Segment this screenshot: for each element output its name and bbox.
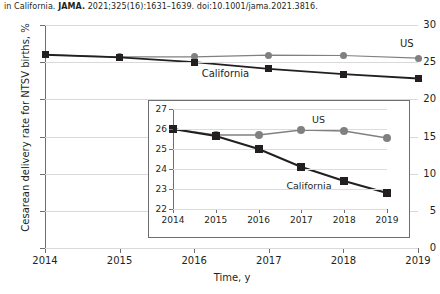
inset-data-point-california (255, 145, 263, 153)
inset-x-tick-label: 2015 (196, 215, 236, 225)
data-point-california (415, 75, 422, 82)
inset-plot-area: USCalifornia (173, 109, 387, 209)
inset-y-tick-mark (169, 189, 173, 190)
inset-x-tick-label: 2017 (281, 215, 321, 225)
inset-x-tick-mark (344, 210, 345, 213)
inset-y-grid-line (173, 209, 387, 210)
inset-series-label-california: California (286, 181, 331, 191)
inset-data-point-california (297, 163, 305, 171)
x-tick-label: 2019 (396, 255, 440, 266)
figure-citation: in California. JAMA. 2021;325(16):1631–1… (4, 1, 432, 12)
data-point-california (191, 59, 198, 66)
inset-y-grid-line (173, 189, 387, 190)
y-grid-line (45, 25, 418, 26)
x-tick-mark (418, 249, 419, 253)
y-tick-mark (40, 211, 45, 212)
y-tick-mark (40, 62, 45, 63)
inset-y-tick-label: 27 (149, 105, 167, 114)
inset-x-tick-mark (173, 210, 174, 213)
y-grid-line (45, 248, 418, 249)
x-tick-label: 2018 (321, 255, 365, 266)
data-point-california (116, 54, 123, 61)
x-axis-title: Time, y (45, 272, 419, 283)
inset-x-tick-label: 2016 (239, 215, 279, 225)
inset-x-tick-mark (301, 210, 302, 213)
x-tick-mark (194, 249, 195, 253)
inset-y-tick-mark (169, 109, 173, 110)
x-tick-mark (269, 249, 270, 253)
inset-y-tick-mark (169, 149, 173, 150)
inset-chart: USCalifornia 222324252627201420152016201… (148, 100, 410, 238)
inset-data-point-california (212, 132, 220, 140)
inset-data-point-california (340, 177, 348, 185)
y-tick-label: 25 (400, 57, 436, 67)
citation-journal-name: JAMA. (58, 2, 85, 11)
inset-series-line-california (173, 129, 387, 193)
data-point-us (340, 52, 347, 59)
inset-y-grid-line (173, 169, 387, 170)
x-tick-label: 2017 (247, 255, 291, 266)
inset-y-tick-mark (169, 129, 173, 130)
inset-data-point-california (383, 189, 391, 197)
y-axis-title: Cesarean delivery rate for NTSV births, … (20, 8, 31, 248)
inset-y-grid-line (173, 149, 387, 150)
data-point-us (265, 52, 272, 59)
inset-x-tick-label: 2018 (324, 215, 364, 225)
series-label-us: US (400, 38, 414, 49)
inset-data-point-us (383, 134, 391, 142)
inset-y-grid-line (173, 109, 387, 110)
inset-y-tick-label: 25 (149, 145, 167, 154)
inset-y-tick-label: 22 (149, 205, 167, 214)
inset-series-label-us: US (312, 115, 325, 125)
x-tick-mark (45, 249, 46, 253)
y-tick-mark (40, 174, 45, 175)
x-tick-label: 2016 (172, 255, 216, 266)
y-tick-mark (40, 25, 45, 26)
inset-x-tick-mark (387, 210, 388, 213)
data-point-california (265, 65, 272, 72)
series-label-california: California (202, 68, 250, 79)
figure-chart: Cesarean delivery rate for NTSV births, … (0, 14, 436, 294)
citation-suffix: 2021;325(16):1631–1639. doi:10.1001/jama… (85, 2, 318, 11)
data-point-california (340, 71, 347, 78)
inset-data-point-us (255, 131, 263, 139)
x-tick-label: 2015 (98, 255, 142, 266)
y-tick-label: 30 (400, 20, 436, 30)
inset-y-tick-label: 23 (149, 185, 167, 194)
x-tick-label: 2014 (23, 255, 67, 266)
inset-y-tick-label: 24 (149, 165, 167, 174)
y-tick-mark (40, 99, 45, 100)
y-tick-mark (40, 137, 45, 138)
x-tick-mark (343, 249, 344, 253)
inset-y-tick-mark (169, 169, 173, 170)
inset-x-tick-label: 2014 (153, 215, 193, 225)
inset-series-lines (173, 109, 387, 209)
inset-y-grid-line (173, 129, 387, 130)
inset-y-tick-label: 26 (149, 125, 167, 134)
inset-x-tick-mark (216, 210, 217, 213)
inset-x-tick-mark (259, 210, 260, 213)
y-grid-line (45, 62, 418, 63)
citation-prefix: in California. (4, 2, 58, 11)
inset-x-tick-label: 2019 (367, 215, 407, 225)
x-tick-mark (120, 249, 121, 253)
data-point-california (42, 51, 49, 58)
